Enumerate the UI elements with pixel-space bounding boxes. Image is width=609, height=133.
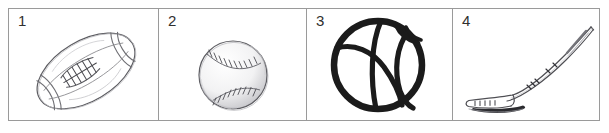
cell-number-label: 2: [168, 12, 176, 30]
basketball-icon: [307, 9, 452, 120]
cell-number-label: 1: [18, 12, 26, 30]
grid-cell-2[interactable]: 2: [159, 9, 307, 120]
worksheet-container: 1: [0, 0, 609, 133]
picture-grid: 1: [8, 8, 600, 121]
grid-cell-1[interactable]: 1: [9, 9, 159, 120]
hockey-stick-icon: [453, 9, 599, 120]
baseball-icon: [159, 9, 306, 120]
cell-number-label: 3: [316, 12, 324, 30]
american-football-icon: [9, 9, 158, 120]
grid-cell-4[interactable]: 4: [453, 9, 599, 120]
grid-cell-3[interactable]: 3: [307, 9, 453, 120]
cell-number-label: 4: [462, 12, 470, 30]
